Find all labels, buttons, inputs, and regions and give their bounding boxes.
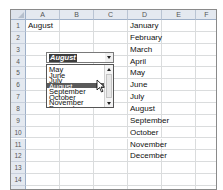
row-header-13[interactable]: 13 <box>11 162 26 174</box>
cell-e10[interactable] <box>162 127 196 139</box>
row-header-7[interactable]: 7 <box>11 91 26 103</box>
cell-d10[interactable]: October <box>128 127 162 139</box>
cell-e13[interactable] <box>162 162 196 174</box>
column-header-e[interactable]: E <box>162 10 196 20</box>
cell-f9[interactable] <box>196 115 217 127</box>
row-header-9[interactable]: 9 <box>11 115 26 127</box>
cell-a14[interactable] <box>26 174 60 186</box>
cell-e1[interactable] <box>162 20 196 32</box>
cell-f12[interactable] <box>196 150 217 162</box>
row-header-3[interactable]: 3 <box>11 44 26 56</box>
cell-d2[interactable]: February <box>128 32 162 44</box>
cell-b2[interactable] <box>60 32 94 44</box>
cell-a2[interactable] <box>26 32 60 44</box>
row-header-14[interactable]: 14 <box>11 174 26 186</box>
cell-e14[interactable] <box>162 174 196 186</box>
cell-e15[interactable] <box>162 186 196 190</box>
cell-b11[interactable] <box>60 139 94 151</box>
cell-d1[interactable]: January <box>128 20 162 32</box>
list-option-december[interactable]: December <box>47 105 107 109</box>
cell-c2[interactable] <box>94 32 128 44</box>
cell-f13[interactable] <box>196 162 217 174</box>
cell-c14[interactable] <box>94 174 128 186</box>
cell-a12[interactable] <box>26 150 60 162</box>
column-header-c[interactable]: C <box>94 10 128 20</box>
cell-d11[interactable]: November <box>128 139 162 151</box>
cell-f5[interactable] <box>196 67 217 79</box>
cell-f8[interactable] <box>196 103 217 115</box>
cell-d15[interactable] <box>128 186 162 190</box>
cell-a13[interactable] <box>26 162 60 174</box>
cell-e12[interactable] <box>162 150 196 162</box>
cell-f4[interactable] <box>196 56 217 68</box>
cell-b1[interactable] <box>60 20 94 32</box>
cell-f10[interactable] <box>196 127 217 139</box>
cell-e9[interactable] <box>162 115 196 127</box>
cell-b13[interactable] <box>60 162 94 174</box>
cell-e3[interactable] <box>162 44 196 56</box>
cell-d12[interactable]: December <box>128 150 162 162</box>
cell-b9[interactable] <box>60 115 94 127</box>
row-header-12[interactable]: 12 <box>11 150 26 162</box>
column-header-d[interactable]: D <box>128 10 162 20</box>
row-header-5[interactable]: 5 <box>11 67 26 79</box>
cell-f1[interactable] <box>196 20 217 32</box>
row-header-2[interactable]: 2 <box>11 32 26 44</box>
cell-e2[interactable] <box>162 32 196 44</box>
cell-e6[interactable] <box>162 79 196 91</box>
cell-f6[interactable] <box>196 79 217 91</box>
combo-selected-value[interactable]: August <box>49 54 77 62</box>
cell-f11[interactable] <box>196 139 217 151</box>
cell-d13[interactable] <box>128 162 162 174</box>
scroll-thumb[interactable] <box>106 74 112 98</box>
cell-e11[interactable] <box>162 139 196 151</box>
column-header-f[interactable]: F <box>196 10 217 20</box>
cell-a1[interactable]: August <box>26 20 60 32</box>
row-header-11[interactable]: 11 <box>11 139 26 151</box>
column-header-a[interactable]: A <box>26 10 60 20</box>
cell-d4[interactable]: April <box>128 56 162 68</box>
row-header-8[interactable]: 8 <box>11 103 26 115</box>
column-header-b[interactable]: B <box>60 10 94 20</box>
scroll-down-button[interactable] <box>105 99 113 107</box>
cell-b10[interactable] <box>60 127 94 139</box>
row-header-1[interactable]: 1 <box>11 20 26 32</box>
cell-d9[interactable]: September <box>128 115 162 127</box>
cell-d7[interactable]: July <box>128 91 162 103</box>
row-header-4[interactable]: 4 <box>11 56 26 68</box>
cell-d3[interactable]: March <box>128 44 162 56</box>
row-header-6[interactable]: 6 <box>11 79 26 91</box>
cell-f3[interactable] <box>196 44 217 56</box>
combo-dropdown-button[interactable] <box>105 53 113 62</box>
cell-b12[interactable] <box>60 150 94 162</box>
cell-c12[interactable] <box>94 150 128 162</box>
cell-e5[interactable] <box>162 67 196 79</box>
cell-c9[interactable] <box>94 115 128 127</box>
cell-c15[interactable] <box>94 186 128 190</box>
cell-c13[interactable] <box>94 162 128 174</box>
cell-f2[interactable] <box>196 32 217 44</box>
cell-e8[interactable] <box>162 103 196 115</box>
cell-b15[interactable] <box>60 186 94 190</box>
cell-a10[interactable] <box>26 127 60 139</box>
row-header-10[interactable]: 10 <box>11 127 26 139</box>
cell-e4[interactable] <box>162 56 196 68</box>
month-combo-box[interactable]: August <box>46 52 114 63</box>
cell-a9[interactable] <box>26 115 60 127</box>
cell-c11[interactable] <box>94 139 128 151</box>
cell-d5[interactable]: May <box>128 67 162 79</box>
cell-a15[interactable] <box>26 186 60 190</box>
cell-b14[interactable] <box>60 174 94 186</box>
cell-c10[interactable] <box>94 127 128 139</box>
cell-d6[interactable]: June <box>128 79 162 91</box>
cell-e7[interactable] <box>162 91 196 103</box>
cell-f15[interactable] <box>196 186 217 190</box>
cell-f14[interactable] <box>196 174 217 186</box>
cell-d8[interactable]: August <box>128 103 162 115</box>
select-all-corner[interactable] <box>11 10 26 20</box>
cell-a11[interactable] <box>26 139 60 151</box>
cell-d14[interactable] <box>128 174 162 186</box>
scroll-up-button[interactable] <box>105 65 113 73</box>
cell-c1[interactable] <box>94 20 128 32</box>
row-header-15[interactable]: 15 <box>11 186 26 190</box>
